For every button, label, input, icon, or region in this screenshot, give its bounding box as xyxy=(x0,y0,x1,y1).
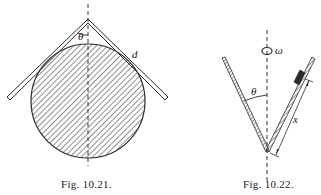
theta-label-fig22: θ xyxy=(251,85,256,97)
caption-fig-10-21: Fig. 10.21. xyxy=(61,178,112,190)
figure-10-21 xyxy=(7,4,168,166)
caption-fig-10-22: Fig. 10.22. xyxy=(243,178,294,190)
figure-10-22 xyxy=(222,30,315,182)
x-label: x xyxy=(293,113,298,125)
x-dimension xyxy=(270,79,313,157)
left-arm xyxy=(222,57,269,152)
theta-label-fig21: θ xyxy=(78,30,83,42)
figures-canvas xyxy=(0,0,321,195)
right-arm xyxy=(266,57,315,152)
d-label: d xyxy=(132,48,138,60)
omega-label: ω xyxy=(275,44,283,56)
